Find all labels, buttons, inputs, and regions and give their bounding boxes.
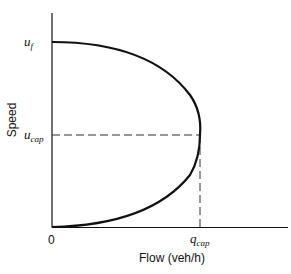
y-axis-title: Speed bbox=[5, 103, 19, 138]
x-axis-title: Flow (veh/h) bbox=[139, 251, 205, 265]
qcap-label: qcap bbox=[190, 231, 210, 248]
speed-flow-chart: uf ucap 0 qcap Flow (veh/h) Speed bbox=[0, 0, 291, 274]
origin-label: 0 bbox=[48, 233, 55, 247]
uf-label: uf bbox=[24, 34, 35, 51]
ucap-label: ucap bbox=[24, 127, 44, 144]
